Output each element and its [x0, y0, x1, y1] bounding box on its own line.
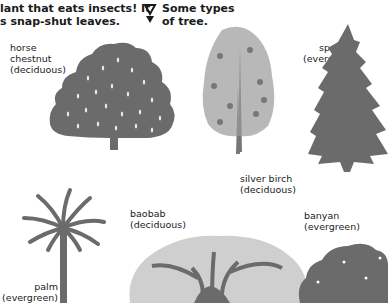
horse-chestnut-tree-illustration	[48, 38, 178, 158]
intro-line-1: lant that eats insects! It	[0, 2, 150, 15]
spruce-tree-illustration	[304, 22, 388, 172]
double-triangle-pointer-icon	[144, 4, 156, 26]
silver-birch-caption: silver birch (deciduous)	[240, 173, 296, 195]
intro-line-2: s snap-shut leaves.	[0, 15, 150, 28]
intro-text: lant that eats insects! It s snap-shut l…	[0, 2, 150, 28]
baobab-tree-illustration	[122, 232, 312, 303]
banyan-tree-illustration	[296, 238, 388, 303]
palm-caption: palm (evergreen)	[0, 281, 58, 303]
silver-birch-tree-illustration	[200, 26, 280, 156]
section-heading: Some types of tree.	[162, 2, 235, 28]
baobab-caption: baobab (deciduous)	[130, 208, 186, 230]
banyan-caption: banyan (evergreen)	[304, 210, 360, 232]
section-heading-line-1: Some types	[162, 2, 235, 15]
